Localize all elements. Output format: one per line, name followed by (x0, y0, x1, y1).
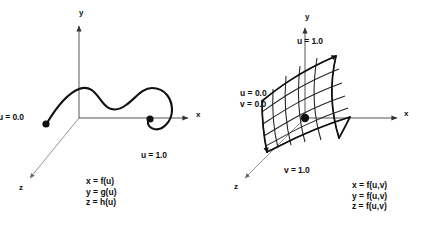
surface-equation-block: x = f(u,v) y = f(u,v) z = f(u,v) (352, 180, 387, 212)
surface-y-axis-label: y (305, 13, 309, 21)
curve-z-axis-label: z (19, 184, 23, 192)
surface-v-origin-label: v = 0.0 (240, 99, 267, 110)
curve-z-axis (30, 118, 79, 178)
surface-diagram-svg (215, 0, 431, 227)
curve-x-axis-label: x (196, 111, 200, 119)
curve-y-axis-label: y (79, 9, 83, 17)
parametric-curve-path (47, 88, 172, 129)
u-end-marker-dot (146, 115, 153, 122)
parametric-curve-panel: y x z u = 0.0 u = 1.0 x = f(u) y = g(u) … (0, 0, 216, 227)
surface-equation-x: x = f(u,v) (352, 180, 387, 191)
curve-equation-z: z = h(u) (86, 197, 116, 208)
parametric-geometry-figure: y x z u = 0.0 u = 1.0 x = f(u) y = g(u) … (0, 0, 431, 227)
u-start-marker-dot (42, 120, 49, 127)
curve-equation-block: x = f(u) y = g(u) z = h(u) (86, 176, 116, 208)
surface-v-max-label: v = 1.0 (284, 166, 310, 175)
surface-point-marker (301, 114, 309, 122)
parametric-surface-panel: y x z u = 1.0 u = 0.0 v = 0.0 v = 1.0 x … (215, 0, 431, 227)
surface-u-origin-label: u = 0.0 (240, 88, 267, 99)
curve-u-end-label: u = 1.0 (141, 151, 167, 160)
surface-v-boundary-right (332, 56, 339, 138)
surface-equation-y: y = f(u,v) (352, 191, 387, 202)
surface-z-axis-label: z (234, 183, 238, 191)
surface-u-max-label: u = 1.0 (297, 37, 323, 46)
surface-origin-label-block: u = 0.0 v = 0.0 (240, 88, 267, 109)
surface-x-axis-label: x (404, 110, 408, 118)
curve-u-start-label: u = 0.0 (0, 113, 24, 122)
curve-equation-x: x = f(u) (86, 176, 116, 187)
surface-equation-z: z = f(u,v) (352, 201, 387, 212)
curve-equation-y: y = g(u) (86, 187, 116, 198)
